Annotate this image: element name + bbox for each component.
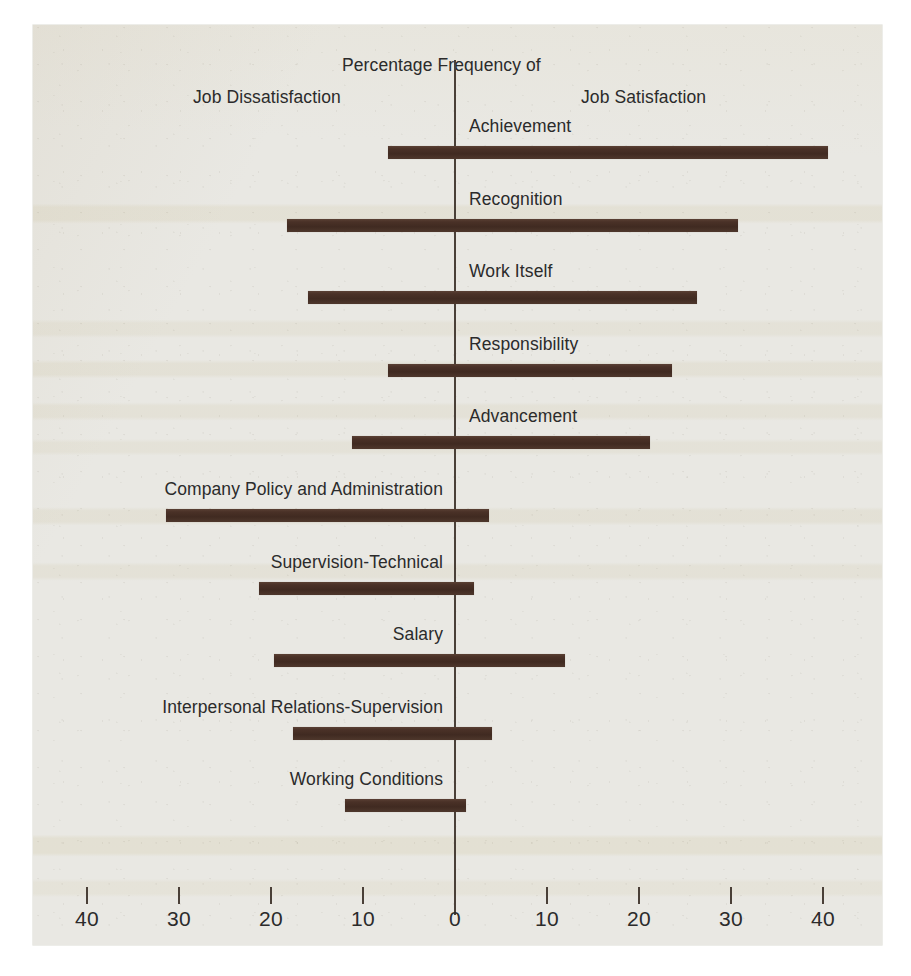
axis-tick-label: 20 bbox=[259, 907, 283, 931]
bar-recognition bbox=[287, 219, 739, 232]
axis-tick bbox=[362, 887, 364, 904]
bar-label: Company Policy and Administration bbox=[33, 479, 443, 500]
bar-company-policy-and-administration bbox=[166, 509, 489, 522]
axis-tick bbox=[86, 887, 88, 904]
bar-interpersonal-relations-supervision bbox=[293, 727, 492, 740]
axis-tick-label: 0 bbox=[449, 907, 461, 931]
bar-label: Salary bbox=[33, 624, 443, 645]
plot-area: Percentage Frequency of Job Dissatisfact… bbox=[33, 25, 882, 945]
axis-tick bbox=[546, 887, 548, 904]
axis-tick-label: 10 bbox=[535, 907, 559, 931]
bar-label: Work Itself bbox=[469, 261, 552, 282]
chart-panel: Percentage Frequency of Job Dissatisfact… bbox=[33, 25, 882, 945]
bar-responsibility bbox=[388, 364, 672, 377]
bar-label: Working Conditions bbox=[33, 769, 443, 790]
axis-tick-label: 10 bbox=[351, 907, 375, 931]
bar-label: Responsibility bbox=[469, 334, 578, 355]
axis-tick bbox=[730, 887, 732, 904]
x-axis-scale: 40302010010203040 bbox=[33, 887, 882, 945]
axis-tick bbox=[270, 887, 272, 904]
bar-achievement bbox=[388, 146, 828, 159]
axis-tick bbox=[638, 887, 640, 904]
bar-advancement bbox=[352, 436, 650, 449]
axis-tick-label: 40 bbox=[811, 907, 835, 931]
zero-axis-line bbox=[454, 60, 456, 915]
bar-label: Recognition bbox=[469, 189, 563, 210]
axis-tick-label: 40 bbox=[75, 907, 99, 931]
axis-heading-satisfaction: Job Satisfaction bbox=[581, 87, 706, 108]
bar-salary bbox=[274, 654, 566, 667]
bar-label: Supervision-Technical bbox=[33, 552, 443, 573]
axis-tick bbox=[822, 887, 824, 904]
scanned-page: Percentage Frequency of Job Dissatisfact… bbox=[0, 0, 911, 976]
bar-label: Interpersonal Relations-Supervision bbox=[33, 697, 443, 718]
bar-working-conditions bbox=[345, 799, 466, 812]
axis-heading-dissatisfaction: Job Dissatisfaction bbox=[193, 87, 341, 108]
bar-work-itself bbox=[308, 291, 697, 304]
axis-tick-label: 20 bbox=[627, 907, 651, 931]
bar-label: Achievement bbox=[469, 116, 571, 137]
chart-header-title: Percentage Frequency of bbox=[342, 55, 541, 76]
axis-tick-label: 30 bbox=[167, 907, 191, 931]
bar-supervision-technical bbox=[259, 582, 474, 595]
bar-label: Advancement bbox=[469, 406, 577, 427]
axis-tick bbox=[178, 887, 180, 904]
axis-tick-label: 30 bbox=[719, 907, 743, 931]
axis-tick bbox=[454, 887, 456, 904]
